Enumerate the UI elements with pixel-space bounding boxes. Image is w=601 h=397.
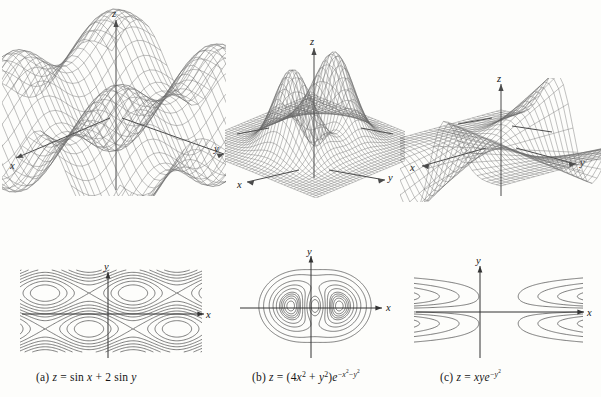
caption-c-lhs: z	[456, 371, 461, 383]
axis-label-x-a: x	[9, 160, 15, 171]
contour-axis-label-x-b: x	[385, 302, 391, 313]
contour-lines-a	[20, 270, 202, 352]
surface-plot-a: z y x	[2, 6, 226, 196]
contour-plot-b: x y	[236, 252, 406, 360]
axis-label-y-b: y	[387, 172, 393, 183]
contour-axis-label-x-c: x	[586, 307, 592, 318]
caption-a: (a) z = sin x + 2 sin y	[36, 371, 137, 383]
caption-c-prefix: (c)	[440, 371, 453, 383]
caption-b-lhs: z	[269, 371, 274, 383]
contour-axis-label-y-a: y	[103, 261, 109, 272]
contour-lines-b	[259, 270, 371, 343]
caption-b-eq: =	[277, 371, 284, 383]
contour-axis-label-y-c: y	[475, 255, 481, 266]
axis-label-z-c: z	[496, 73, 501, 84]
contour-plot-a: x y	[14, 262, 214, 360]
caption-a-eq: =	[60, 371, 67, 383]
textbook-figure: z y x z y x	[0, 0, 601, 397]
contour-axis-label-x-a: x	[205, 309, 211, 320]
caption-b: (b) z = (4x2 + y2)e−x2−y2	[252, 371, 360, 383]
caption-a-prefix: (a)	[36, 371, 49, 383]
axis-label-y-a: y	[213, 143, 219, 154]
axis-label-x-b: x	[236, 179, 242, 190]
caption-a-lhs: z	[52, 371, 57, 383]
contour-plot-c: x y	[412, 258, 601, 360]
contour-lines-c	[414, 278, 583, 342]
caption-c-eq: =	[464, 371, 471, 383]
caption-b-prefix: (b)	[252, 371, 266, 383]
caption-c: (c) z = xye−y2	[440, 371, 501, 383]
surface-plot-c: z y x	[400, 78, 601, 202]
contour-axes-c	[416, 266, 584, 358]
axis-label-z-b: z	[309, 36, 314, 47]
contour-axis-label-y-b: y	[306, 246, 312, 257]
surface-plot-b: z y x	[225, 28, 405, 198]
